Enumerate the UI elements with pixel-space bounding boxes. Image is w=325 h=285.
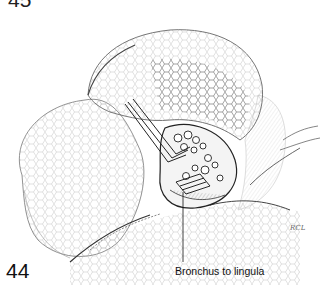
lung-illustration: [0, 0, 325, 285]
hilum-dissection: [160, 125, 237, 209]
callout-label-bronchus-to-lingula: Bronchus to lingula: [175, 266, 264, 277]
figure-number: 44: [6, 260, 29, 281]
artist-signature: RCL: [290, 224, 305, 232]
